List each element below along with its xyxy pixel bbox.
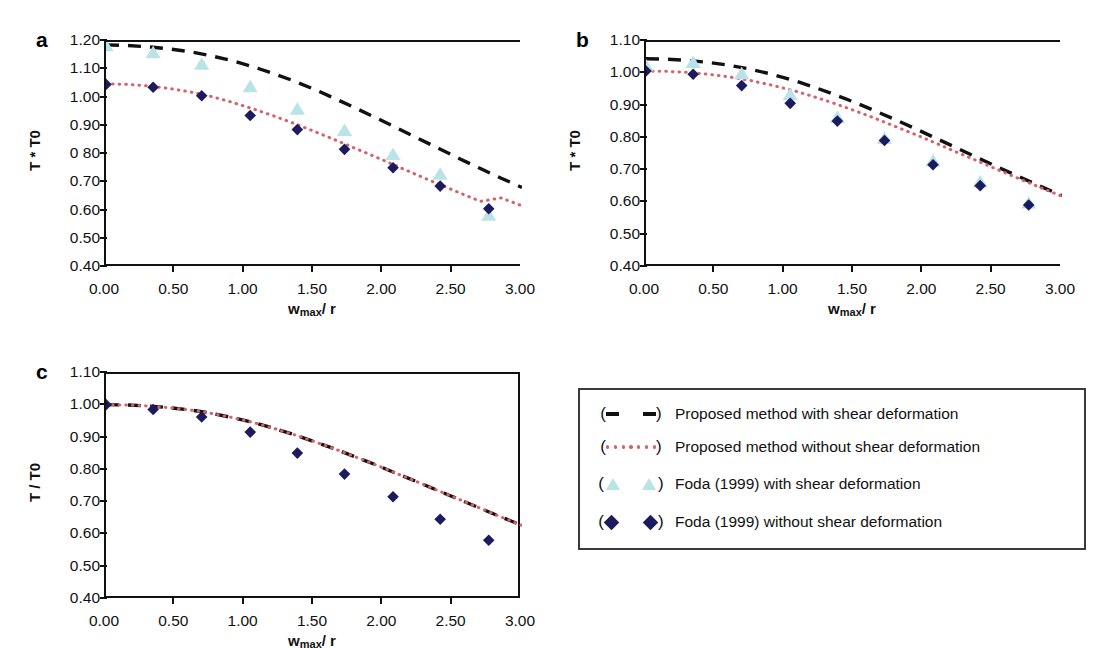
x-tick-label: 2.00 [366, 612, 396, 630]
y-tick-label: 1.00 [70, 88, 100, 106]
y-tick-label: 0.40 [610, 257, 640, 275]
x-tick-label: 2.00 [366, 280, 396, 298]
x-tick-label: 3.00 [505, 612, 535, 630]
x-tick-mark [380, 265, 382, 272]
x-tick-mark [782, 265, 784, 272]
y-tick-mark [640, 104, 647, 106]
x-tick-label: 1.50 [837, 280, 867, 298]
x-tick-mark [450, 265, 452, 272]
x-tick-label: 0.50 [698, 280, 728, 298]
panel-a-y-axis-label: T * T0 [26, 113, 43, 189]
data-point-diamond [927, 159, 939, 171]
y-tick-mark [640, 136, 647, 138]
y-tick-mark [640, 168, 647, 170]
series-line-dotted [106, 405, 522, 526]
legend-item-proposed-without-shear: ( ) Proposed method without shear deform… [594, 437, 980, 457]
navy-diamond-icon [604, 514, 658, 530]
data-point-diamond [434, 180, 446, 192]
legend-key-triangle: ( ) [594, 474, 668, 494]
y-tick-mark [100, 180, 107, 182]
x-tick-mark [990, 265, 992, 272]
y-tick-mark [100, 565, 107, 567]
y-tick-label: 0.50 [610, 225, 640, 243]
y-tick-label: 0.90 [70, 116, 100, 134]
legend-item-proposed-with-shear: ( ) Proposed method with shear deformati… [594, 404, 958, 424]
legend-label: Foda (1999) with shear deformation [675, 475, 921, 493]
data-point-triangle [194, 57, 209, 69]
panel-a: a 1.201.101.000.900 800.700.600.500.40 0… [0, 0, 540, 330]
xlabel-tail: / r [322, 632, 336, 648]
y-tick-mark [100, 39, 107, 41]
y-tick-label: 1.10 [610, 31, 640, 49]
data-point-diamond [832, 115, 844, 127]
x-tick-label: 2.50 [436, 612, 466, 630]
data-point-diamond [339, 468, 351, 480]
x-tick-label: 2.50 [976, 280, 1006, 298]
x-tick-label: 2.50 [436, 280, 466, 298]
x-tick-mark [851, 265, 853, 272]
legend-key-dotted: ( ) [594, 437, 668, 457]
data-point-triangle [290, 102, 305, 114]
x-tick-label: 2.00 [906, 280, 936, 298]
black-dashed-line-icon [606, 406, 656, 422]
x-tick-mark [380, 597, 382, 604]
panel-b-x-axis-label: wmax/ r [828, 300, 876, 318]
y-tick-mark [100, 67, 107, 69]
x-tick-mark [311, 265, 313, 272]
y-tick-label: 1.00 [610, 63, 640, 81]
data-point-diamond [147, 81, 159, 93]
x-tick-label: 1.50 [297, 612, 327, 630]
panel-c-plot-area [104, 372, 520, 598]
xlabel-main: w [828, 300, 840, 317]
xlabel-subscript: max [300, 306, 322, 318]
data-point-diamond [974, 180, 986, 192]
data-point-triangle [734, 67, 749, 79]
panel-a-x-tick-labels: 0.000.501.001.502.002.503.00 [104, 272, 520, 296]
panel-b: b 1.101.000.900.800.700.600.500.40 0.000… [540, 0, 1113, 330]
series-line-dashed [106, 45, 522, 188]
y-tick-mark [100, 403, 107, 405]
y-tick-label: 0.70 [70, 172, 100, 190]
panel-c-y-tick-labels: 1.101.000.900.800.700.600.500.40 [44, 372, 100, 598]
y-tick-label: 0.70 [610, 160, 640, 178]
panel-c-x-axis-label: wmax/ r [288, 632, 336, 648]
series-line-dotted [646, 71, 1062, 196]
x-tick-mark [712, 265, 714, 272]
x-tick-mark [172, 265, 174, 272]
x-tick-label: 0.50 [158, 280, 188, 298]
paren-close: ) [656, 404, 662, 424]
y-tick-mark [100, 96, 107, 98]
y-tick-label: 0.60 [610, 192, 640, 210]
panel-c-y-axis-label: T / T0 [26, 445, 43, 521]
y-tick-label: 0.80 [70, 460, 100, 478]
legend-label: Proposed method with shear deformation [675, 405, 958, 423]
x-tick-label: 1.00 [768, 280, 798, 298]
x-tick-label: 3.00 [505, 280, 535, 298]
y-tick-mark [100, 436, 107, 438]
data-point-diamond [244, 426, 256, 438]
y-tick-mark [100, 468, 107, 470]
y-tick-mark [100, 124, 107, 126]
legend-item-foda-with-shear: ( ) Foda (1999) with shear deformation [594, 474, 921, 494]
legend-key-diamond: ( ) [594, 512, 668, 532]
y-tick-label: 0.40 [70, 257, 100, 275]
panel-b-y-axis-label: T * T0 [566, 113, 583, 189]
y-tick-mark [100, 209, 107, 211]
y-tick-label: 1.20 [70, 31, 100, 49]
xlabel-main: w [288, 300, 300, 317]
panel-c-x-tick-labels: 0.000.501.001.502.002.503.00 [104, 604, 520, 628]
x-tick-label: 1.00 [228, 280, 258, 298]
data-point-diamond [483, 203, 495, 215]
xlabel-subscript: max [300, 638, 322, 648]
x-tick-mark [311, 597, 313, 604]
panel-b-y-tick-labels: 1.101.000.900.800.700.600.500.40 [584, 40, 640, 266]
data-point-diamond [244, 110, 256, 122]
panel-a-series-canvas [106, 42, 522, 268]
y-tick-mark [100, 532, 107, 534]
data-point-diamond [687, 68, 699, 80]
y-tick-mark [640, 233, 647, 235]
y-tick-label: 1.10 [70, 363, 100, 381]
panel-b-x-tick-labels: 0.000.501.001.502.002.503.00 [644, 272, 1060, 296]
y-tick-label: 0.90 [610, 96, 640, 114]
y-tick-mark [100, 265, 107, 267]
